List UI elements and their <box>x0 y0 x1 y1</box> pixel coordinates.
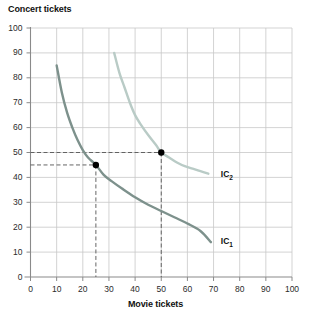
x-tick-label: 80 <box>228 284 252 294</box>
y-tick-label: 90 <box>1 47 23 57</box>
y-tick-label: 40 <box>1 172 23 182</box>
y-tick-label: 80 <box>1 72 23 82</box>
x-tick-label: 40 <box>123 284 147 294</box>
plot-area <box>0 0 311 319</box>
x-tick-label: 20 <box>71 284 95 294</box>
curve-label-subscript: 2 <box>229 174 233 181</box>
x-tick-label: 90 <box>254 284 278 294</box>
y-tick-label: 30 <box>1 197 23 207</box>
curve-label-text: IC <box>221 169 230 179</box>
ic2-label: IC2 <box>221 169 233 181</box>
y-tick-label: 70 <box>1 97 23 107</box>
x-tick-label: 60 <box>175 284 199 294</box>
x-tick-label: 50 <box>149 284 173 294</box>
y-tick-label: 50 <box>1 147 23 157</box>
y-tick-label: 0 <box>1 272 23 282</box>
y-tick-label: 10 <box>1 247 23 257</box>
indifference-curve-chart: Concert tickets Movie tickets 0102030405… <box>0 0 311 319</box>
curve-label-text: IC <box>221 236 230 246</box>
point-ic1 <box>93 162 99 168</box>
y-tick-label: 100 <box>1 23 23 33</box>
x-tick-label: 100 <box>280 284 304 294</box>
x-tick-label: 10 <box>45 284 69 294</box>
guide-lines <box>31 153 162 278</box>
ic1-label: IC1 <box>221 236 233 248</box>
curve-label-subscript: 1 <box>229 241 233 248</box>
x-tick-label: 70 <box>202 284 226 294</box>
x-tick-label: 0 <box>19 284 43 294</box>
x-tick-label: 30 <box>97 284 121 294</box>
point-ic2 <box>158 149 164 155</box>
y-tick-label: 20 <box>1 222 23 232</box>
y-tick-label: 60 <box>1 122 23 132</box>
